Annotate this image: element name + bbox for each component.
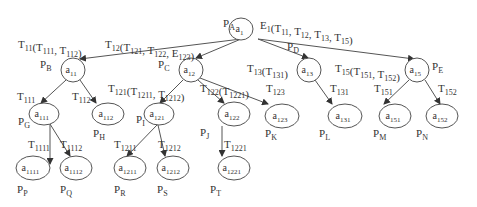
transition-label-T122: T122(T1221) — [200, 82, 249, 101]
transition-label-T11: T11(T111, T112) — [18, 38, 82, 60]
transition-label-T12: T12(T121, T122, E123) — [105, 38, 194, 63]
node-a1112: a1112PQ — [60, 156, 92, 198]
transition-label-E1: E1(T11, T12, T13, T15) — [260, 19, 353, 47]
place-label: PG — [18, 115, 30, 130]
node-a121: a121PI — [136, 103, 174, 128]
node-a152: a152PN — [416, 104, 458, 142]
node-a123: a123PK — [265, 104, 299, 142]
place-label: PH — [93, 127, 105, 142]
place-label: PS — [157, 183, 168, 198]
node-a131: a131PL — [319, 104, 362, 142]
place-label: PM — [373, 127, 386, 142]
transition-label-T152: T152 — [438, 82, 457, 97]
node-a1221: a1221PT — [210, 156, 250, 198]
transition-label-T131: T131 — [330, 82, 349, 97]
place-label: PJ — [200, 126, 209, 141]
transition-label-T1112: T1112 — [60, 138, 82, 153]
place-label: PN — [416, 127, 428, 142]
node-a111: a111PG — [18, 103, 59, 130]
transition-label-T151: T151 — [374, 82, 393, 97]
transition-label-T13: T13(T131) — [247, 62, 288, 81]
edge-a11-a111 — [41, 80, 66, 103]
transition-label-T1221: T1221 — [224, 138, 247, 153]
place-label: PQ — [60, 183, 72, 198]
node-a112: a112PH — [92, 103, 124, 142]
place-label: PE — [432, 60, 443, 75]
transition-label-T15: T15(T151, T152) — [335, 62, 400, 84]
place-label: PL — [319, 127, 330, 142]
transition-label-T123: T123 — [266, 82, 285, 97]
transition-label-T1111: T1111 — [28, 138, 50, 153]
node-a1211: a1211PR — [114, 156, 146, 198]
place-label: PR — [114, 183, 126, 198]
place-label: PC — [158, 58, 169, 73]
transition-label-T1212: T1212 — [158, 138, 181, 153]
diagram-svg: a1PAa11PBa12PCa13PDa15PEa111PGa112PHa121… — [0, 0, 477, 207]
node-a15: a15PE — [405, 58, 443, 82]
nodes-group: a1PAa11PBa12PCa13PDa15PEa111PGa112PHa121… — [16, 17, 458, 198]
node-a1: a1PA — [223, 17, 253, 40]
place-label: PT — [210, 183, 221, 198]
place-label: PK — [265, 127, 277, 142]
node-a1212: a1212PS — [157, 156, 189, 198]
transition-label-T121: T121(T1211, T1212) — [108, 82, 185, 104]
transition-label-T112: T112 — [72, 90, 90, 105]
node-a151: a151PM — [373, 104, 411, 142]
place-label: PB — [40, 58, 51, 73]
petri-tree-diagram: a1PAa11PBa12PCa13PDa15PEa111PGa112PHa121… — [0, 0, 477, 207]
transition-label-T111: T111 — [17, 90, 35, 105]
place-label: PA — [223, 17, 235, 32]
node-a122: a122PJ — [200, 102, 250, 141]
place-label: PP — [17, 183, 28, 198]
transition-label-T1211: T1211 — [114, 138, 136, 153]
place-label: PD — [287, 40, 299, 55]
node-a11: a11PB — [40, 58, 85, 82]
node-a1111: a1111PP — [16, 156, 50, 198]
